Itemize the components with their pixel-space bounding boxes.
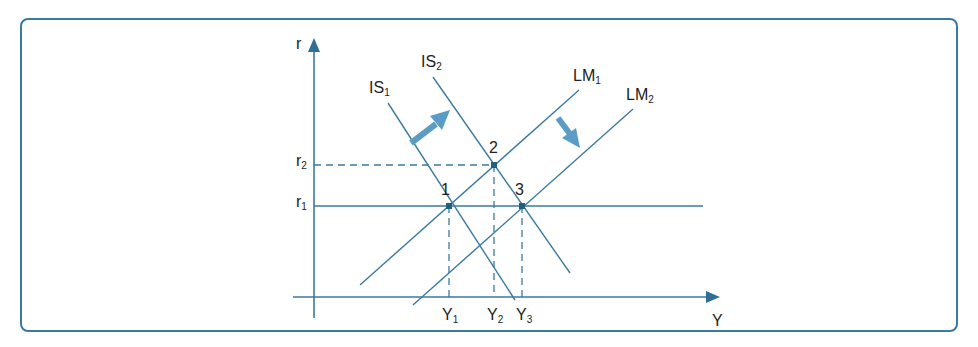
is2-curve	[433, 77, 570, 273]
y3-label: Y3	[516, 307, 532, 325]
is2-label: IS2	[421, 54, 442, 72]
point-1-label: 1	[441, 182, 450, 198]
lm1-label: LM1	[573, 68, 601, 86]
islm-diagram	[0, 0, 978, 347]
is-shift-arrow-icon	[411, 110, 450, 143]
guide-lines	[314, 165, 522, 297]
x-axis	[293, 291, 720, 303]
y-axis-label: r	[296, 36, 301, 52]
y2-label: Y2	[487, 307, 503, 325]
equilibrium-points	[446, 162, 525, 209]
x-axis-label: Y	[712, 313, 723, 329]
point-2-label: 2	[489, 140, 498, 156]
r2-label: r2	[296, 153, 307, 171]
lm-shift-arrow-icon	[558, 118, 580, 148]
is1-label: IS1	[369, 80, 390, 98]
point-3-label: 3	[515, 182, 524, 198]
lm1-curve	[360, 90, 579, 285]
r1-label: r1	[296, 194, 307, 212]
lm2-label: LM2	[626, 87, 654, 105]
y-axis	[308, 38, 320, 318]
y1-label: Y1	[442, 307, 458, 325]
